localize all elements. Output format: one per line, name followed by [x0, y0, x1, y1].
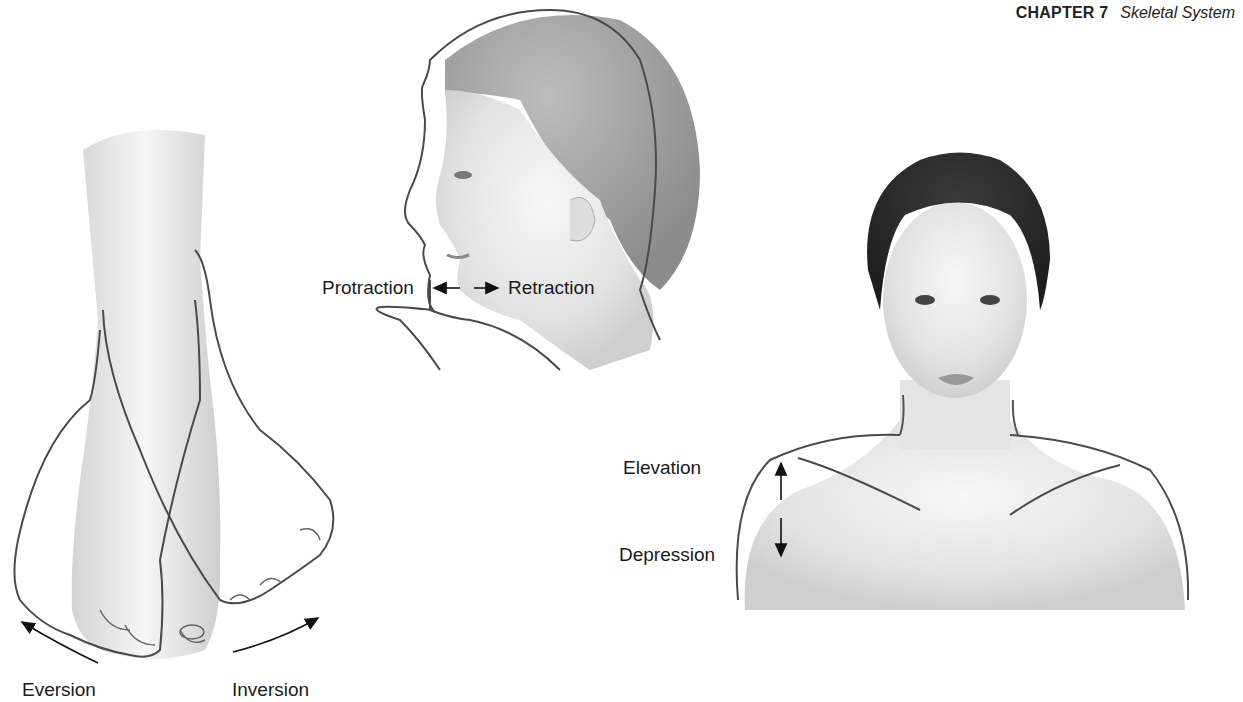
label-depression: Depression [619, 544, 715, 566]
illustration-canvas [0, 0, 1243, 702]
label-protraction: Protraction [322, 277, 414, 299]
label-elevation: Elevation [623, 457, 701, 479]
curved-arrow-right-icon [233, 618, 318, 652]
foot-figure [14, 130, 333, 663]
label-retraction: Retraction [508, 277, 595, 299]
shoulders-figure [737, 153, 1188, 611]
label-inversion: Inversion [232, 679, 309, 701]
head-profile-figure [376, 10, 700, 370]
label-eversion: Eversion [22, 679, 96, 701]
face-shape [883, 202, 1027, 398]
foot-shaded [72, 130, 221, 659]
